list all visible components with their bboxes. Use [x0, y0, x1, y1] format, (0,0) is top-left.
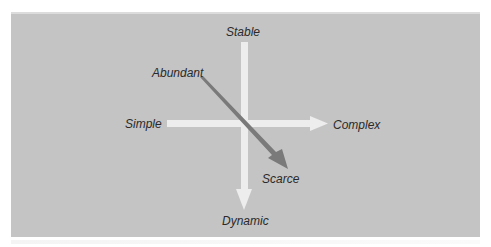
simple-label: Simple	[125, 117, 162, 131]
abundant-label: Abundant	[152, 66, 203, 80]
bottom-edge	[11, 240, 480, 244]
complex-label: Complex	[333, 118, 380, 132]
stable-label: Stable	[226, 25, 260, 39]
dynamic-label: Dynamic	[222, 214, 269, 228]
scarce-label: Scarce	[262, 172, 299, 186]
